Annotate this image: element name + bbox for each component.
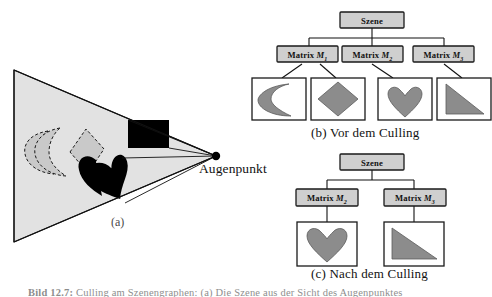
edge-b-m1-leaf1 xyxy=(282,64,302,78)
node-c-root-label: Szene xyxy=(340,158,404,168)
node-c-matrix-2-symbol: M2 xyxy=(336,193,347,203)
node-c-matrix-2-prefix: Matrix xyxy=(307,193,334,203)
node-c-matrix-3-symbol: M3 xyxy=(424,193,435,203)
node-b-matrix-1-label: Matrix M1 xyxy=(277,50,338,62)
node-b-matrix-3-symbol: M3 xyxy=(453,50,464,60)
panel-b-scene-graph xyxy=(252,12,491,120)
node-b-matrix-1-symbol: M1 xyxy=(317,50,328,60)
node-c-matrix-3-prefix: Matrix xyxy=(395,193,422,203)
node-b-matrix-2-symbol: M2 xyxy=(382,50,393,60)
figure-caption-text: Culling am Szenengraphen: (a) Die Szene … xyxy=(73,287,402,297)
figure-bottom-caption: Bild 12.7: Culling am Szenengraphen: (a)… xyxy=(28,287,403,297)
node-b-root-label: Szene xyxy=(340,16,404,26)
node-b-matrix-2-label: Matrix M2 xyxy=(342,50,403,62)
figure-canvas xyxy=(0,0,492,297)
edge-b-m1-leaf2 xyxy=(320,64,336,78)
figure-c-caption: (c) Nach dem Culling xyxy=(311,266,428,282)
node-c-matrix-3-label: Matrix M3 xyxy=(384,193,446,205)
figure-b-caption: (b) Vor dem Culling xyxy=(311,125,419,141)
edge-b-m3-leaf4 xyxy=(444,64,462,78)
node-b-matrix-1-prefix: Matrix xyxy=(288,50,315,60)
node-b-matrix-3-label: Matrix M3 xyxy=(413,50,474,62)
panel-c-scene-graph xyxy=(296,154,446,266)
figure-a-caption: (a) xyxy=(111,215,124,230)
node-c-matrix-2-label: Matrix M2 xyxy=(296,193,358,205)
node-b-matrix-3-prefix: Matrix xyxy=(424,50,451,60)
node-b-matrix-2-prefix: Matrix xyxy=(353,50,380,60)
figure-caption-number: Bild 12.7: xyxy=(28,287,73,297)
augenpunkt-label: Augenpunkt xyxy=(199,161,267,177)
eye-point-dot xyxy=(212,152,220,160)
edge-b-m2-leaf3 xyxy=(372,64,393,78)
